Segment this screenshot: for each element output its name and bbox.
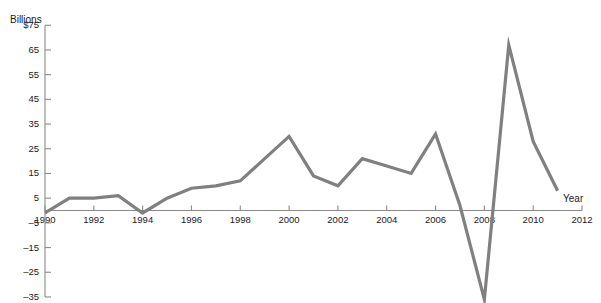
x-axis	[45, 206, 582, 211]
data-line	[45, 45, 558, 299]
data-series-group	[45, 45, 558, 299]
plot-area	[0, 0, 601, 303]
y-axis	[45, 25, 51, 297]
line-chart: Billions Year $756555453525155–5–15–25–3…	[0, 0, 601, 303]
